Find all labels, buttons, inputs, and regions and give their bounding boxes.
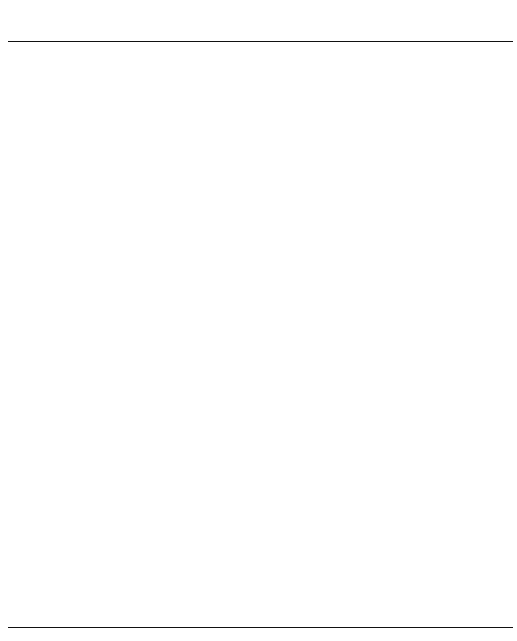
plot-area xyxy=(0,0,517,641)
maintenance-costs-chart xyxy=(0,0,517,641)
axis-bottom-rule xyxy=(8,627,513,628)
axis-top-rule xyxy=(8,41,513,42)
